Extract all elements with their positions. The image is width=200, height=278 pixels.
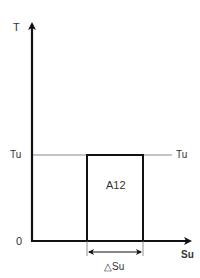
width-label: △Su [104,262,124,272]
origin-label: 0 [16,236,22,246]
threshold-label-left: Tu [10,150,21,160]
area-rectangle [87,155,143,241]
area-label: A12 [106,180,126,190]
y-axis-label: T [13,22,20,32]
diagram-canvas [0,0,200,278]
threshold-label-right: Tu [176,150,187,160]
x-axis-label: Su [181,250,194,260]
